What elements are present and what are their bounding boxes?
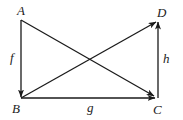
edge-label-g: g: [87, 100, 94, 115]
arrow-b-to-d: [21, 22, 156, 98]
arrow-a-to-c: [21, 20, 154, 96]
node-label-b: B: [12, 101, 20, 116]
edge-label-h: h: [163, 51, 170, 66]
node-label-c: C: [153, 102, 162, 117]
node-label-a: A: [16, 3, 25, 18]
commutative-diagram: A B C D f g h: [0, 0, 183, 120]
edge-label-f: f: [10, 50, 16, 65]
node-label-d: D: [156, 5, 167, 20]
